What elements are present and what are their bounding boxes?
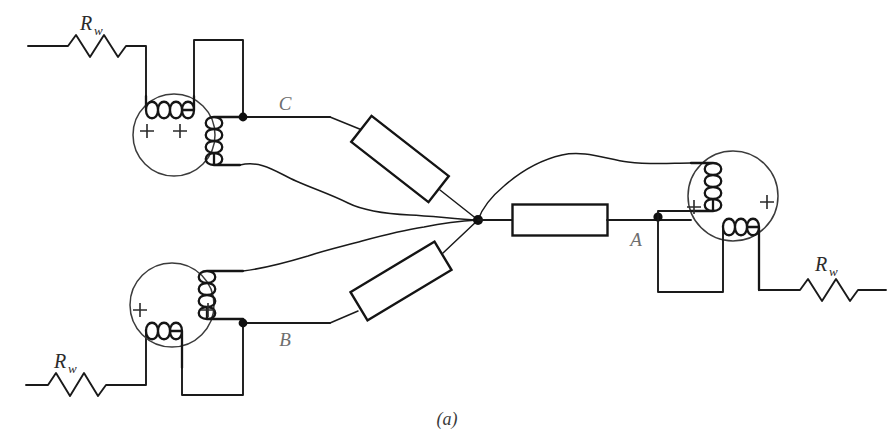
terminal-label-a: A [628,229,642,250]
circuit-diagram-svg: C B A R w R w R w (a) [0,0,894,438]
b-to-lower-block-wire [330,311,358,323]
transformer-bottom-left-primary-lead [182,323,243,395]
transformer-bottom-left-primary-coil [146,323,182,368]
rw-right-label-sub: w [829,264,838,279]
junction-b-dot [239,319,248,328]
c-to-upper-block-wire [330,117,362,130]
rw-top-left-label-main: R [79,12,92,34]
rw-bottom-left-wire [26,330,146,396]
junction-c-dot [239,113,248,122]
rw-right-label: R w [814,253,838,279]
top-left-branch [28,35,362,176]
terminal-label-c: C [279,93,292,114]
lower-block-to-center-wire [443,220,478,253]
circuit-diagram-figure: C B A R w R w R w (a) [0,0,894,438]
right-branch [658,151,886,301]
rw-right-label-main: R [814,253,827,275]
rw-top-left-label-sub: w [94,23,103,38]
rw-bottom-left-label-main: R [53,350,66,372]
block-lower-diagonal [351,242,452,321]
rw-top-left-wire [28,35,146,96]
transformer-top-left-secondary-coil [206,117,243,165]
block-upper-diagonal [351,116,449,202]
rw-bottom-left-label: R w [53,350,77,376]
transformer-bottom-left-secondary-coil [199,271,243,319]
figure-caption: (a) [437,409,458,430]
diagonal-blocks-group [351,116,452,321]
rw-bottom-left-label-sub: w [68,361,77,376]
bottom-left-branch [26,263,358,396]
transformer-right-secondary-coil [723,219,759,290]
transformer-right-core [688,151,778,241]
wavy-leads-group [240,154,691,271]
rw-right-wire [759,279,886,301]
labels-group: C B A R w R w R w (a) [53,12,838,430]
block-center [513,205,608,236]
terminal-label-b: B [279,329,291,350]
transformer-top-left-polarity-marks [140,124,187,138]
upper-block-to-center-wire [440,190,478,220]
transformer-right-primary-lead [658,211,723,292]
rw-top-left-label: R w [79,12,103,38]
